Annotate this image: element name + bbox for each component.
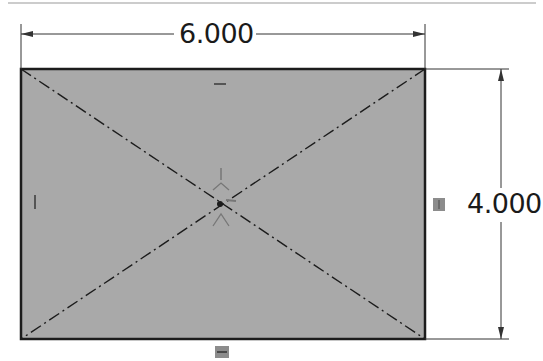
height-dimension-label[interactable]: 4.000 xyxy=(465,190,543,217)
arrow-down-icon xyxy=(498,327,504,339)
vertical-relation-right-icon[interactable] xyxy=(433,198,445,211)
arrow-left-icon xyxy=(21,31,33,37)
sketch-canvas[interactable] xyxy=(0,0,543,361)
horizontal-relation-bottom-icon[interactable] xyxy=(215,346,229,358)
arrow-right-icon xyxy=(413,31,425,37)
arrow-up-icon xyxy=(498,69,504,81)
width-dimension-label[interactable]: 6.000 xyxy=(177,20,256,47)
